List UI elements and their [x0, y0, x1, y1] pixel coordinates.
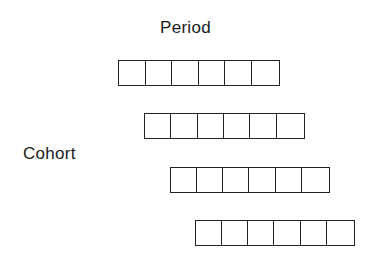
period-cell — [198, 114, 224, 138]
period-cell — [145, 114, 171, 138]
period-cell — [172, 61, 199, 85]
period-cell — [252, 61, 279, 85]
period-cell — [250, 114, 276, 138]
cohort-row-1 — [118, 60, 280, 86]
period-cell — [302, 168, 328, 192]
period-cell — [196, 221, 222, 245]
period-cell — [197, 168, 223, 192]
period-cell — [301, 221, 327, 245]
period-cell — [274, 221, 300, 245]
cohort-row-4 — [195, 220, 355, 246]
period-cell — [171, 168, 197, 192]
period-cell — [119, 61, 146, 85]
period-cell — [199, 61, 226, 85]
cohort-row-3 — [170, 167, 330, 193]
period-cell — [224, 114, 250, 138]
period-label: Period — [160, 18, 211, 38]
period-cell — [276, 168, 302, 192]
period-cell — [327, 221, 353, 245]
period-cell — [249, 168, 275, 192]
cohort-row-2 — [144, 113, 305, 139]
cohort-label: Cohort — [23, 144, 76, 164]
period-cell — [277, 114, 303, 138]
period-cell — [171, 114, 197, 138]
period-cell — [248, 221, 274, 245]
period-cell — [146, 61, 173, 85]
period-cell — [223, 168, 249, 192]
period-cell — [225, 61, 252, 85]
period-cell — [222, 221, 248, 245]
